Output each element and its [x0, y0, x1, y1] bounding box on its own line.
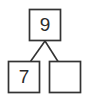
part-box-left-value: 7	[19, 66, 30, 87]
whole-box-value: 9	[40, 14, 51, 35]
connector-right-line	[45, 41, 58, 62]
number-bond-diagram: 9 7	[0, 0, 89, 96]
number-bond-canvas: 9 7	[0, 0, 89, 96]
connector-left-line	[31, 41, 46, 62]
part-box-right[interactable]	[50, 62, 81, 93]
